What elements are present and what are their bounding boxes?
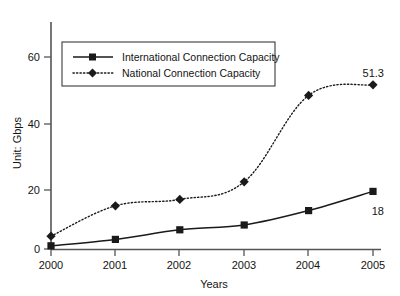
data-point-national-2000[interactable] xyxy=(46,232,55,241)
series-international xyxy=(47,188,376,250)
data-point-national-2001[interactable] xyxy=(111,201,120,210)
chart-canvas: 60 40 20 0 Unit: Gbps 2000 2001 2002 200… xyxy=(0,0,400,296)
data-point-national-2002[interactable] xyxy=(175,195,184,204)
x-tick-label-2002: 2002 xyxy=(167,259,191,271)
chart-figure: 60 40 20 0 Unit: Gbps 2000 2001 2002 200… xyxy=(0,0,400,296)
y-axis-title: Unit: Gbps xyxy=(11,117,23,169)
y-tick-labels: 60 40 20 0 xyxy=(28,51,40,255)
x-tick-label-2003: 2003 xyxy=(232,259,256,271)
data-point-international-2003[interactable] xyxy=(241,221,248,228)
data-point-international-2005[interactable] xyxy=(369,188,376,195)
legend-box xyxy=(62,42,275,86)
data-point-international-2001[interactable] xyxy=(112,236,119,243)
x-tick-labels: 2000 2001 2002 2003 2004 2005 xyxy=(39,259,385,271)
series-national xyxy=(46,80,377,241)
data-series-layer xyxy=(46,80,377,249)
legend-label-international: International Connection Capacity xyxy=(122,51,280,63)
annotation-international-2005: 18 xyxy=(372,205,384,217)
chart-legend: International Connection Capacity Nation… xyxy=(62,42,280,86)
legend-square-marker-icon xyxy=(89,54,96,61)
cropped-title-remnant xyxy=(32,0,372,6)
data-point-international-2002[interactable] xyxy=(176,226,183,233)
x-tick-label-2000: 2000 xyxy=(39,259,63,271)
series-line-national xyxy=(51,84,373,236)
series-line-international xyxy=(51,191,373,245)
y-tick-label-60: 60 xyxy=(28,51,40,63)
y-tick-label-20: 20 xyxy=(28,184,40,196)
data-point-international-2000[interactable] xyxy=(47,242,54,249)
data-point-international-2004[interactable] xyxy=(305,207,312,214)
legend-label-national: National Connection Capacity xyxy=(122,67,261,79)
y-tick-label-0: 0 xyxy=(34,243,40,255)
x-tick-label-2001: 2001 xyxy=(103,259,127,271)
y-tick-label-40: 40 xyxy=(28,118,40,130)
annotation-national-2005: 51.3 xyxy=(363,67,384,79)
x-axis-title: Years xyxy=(200,278,228,290)
x-tick-label-2005: 2005 xyxy=(361,259,385,271)
x-tick-label-2004: 2004 xyxy=(296,259,320,271)
data-point-national-2005[interactable] xyxy=(368,80,377,89)
